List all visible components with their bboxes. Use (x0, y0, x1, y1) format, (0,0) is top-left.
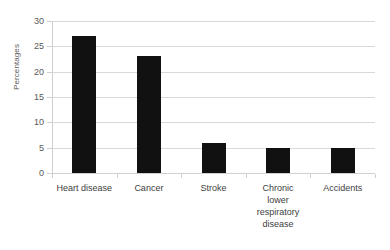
y-axis-tick-label: 0 (0, 169, 44, 178)
y-axis-tick-label: 20 (0, 68, 44, 77)
gridline (52, 72, 375, 73)
bar (331, 148, 355, 173)
y-axis-tick-label: 15 (0, 93, 44, 102)
x-axis-tick (117, 174, 118, 178)
x-axis-category-label: Stroke (181, 182, 246, 194)
x-axis-tick (181, 174, 182, 178)
x-axis-category-label: Accidents (310, 182, 375, 194)
x-axis-category-label: Heart disease (52, 182, 117, 194)
gridline (52, 46, 375, 47)
y-axis-tick-label: 30 (0, 17, 44, 26)
x-axis-category-label-line: disease (246, 218, 311, 230)
x-axis-tick (310, 174, 311, 178)
x-axis-tick (375, 174, 376, 178)
x-axis-category-label-line: Cancer (117, 182, 182, 194)
gridline (52, 173, 375, 174)
x-axis-tick (52, 174, 53, 178)
bar-chart: Percentages 051015202530 Heart diseaseCa… (0, 0, 390, 250)
x-axis-category-label-line: lower (246, 194, 311, 206)
x-axis-category-label-line: Chronic (246, 182, 311, 194)
x-axis-category-label: Chroniclowerrespiratorydisease (246, 182, 311, 230)
bar (202, 143, 226, 173)
bar (266, 148, 290, 173)
x-axis-tick (246, 174, 247, 178)
x-axis-category-label-line: Stroke (181, 182, 246, 194)
bar (72, 36, 96, 173)
x-axis-category-label-line: Accidents (310, 182, 375, 194)
gridline (52, 122, 375, 123)
x-axis-category-label: Cancer (117, 182, 182, 194)
gridline (52, 21, 375, 22)
plot-area (52, 21, 375, 173)
gridline (52, 97, 375, 98)
y-axis-tick-label: 5 (0, 144, 44, 153)
x-axis-category-label-line: respiratory (246, 206, 311, 218)
x-axis-category-label-line: Heart disease (52, 182, 117, 194)
y-axis-tick-label: 10 (0, 118, 44, 127)
y-axis-tick-label: 25 (0, 42, 44, 51)
bar (137, 56, 161, 173)
